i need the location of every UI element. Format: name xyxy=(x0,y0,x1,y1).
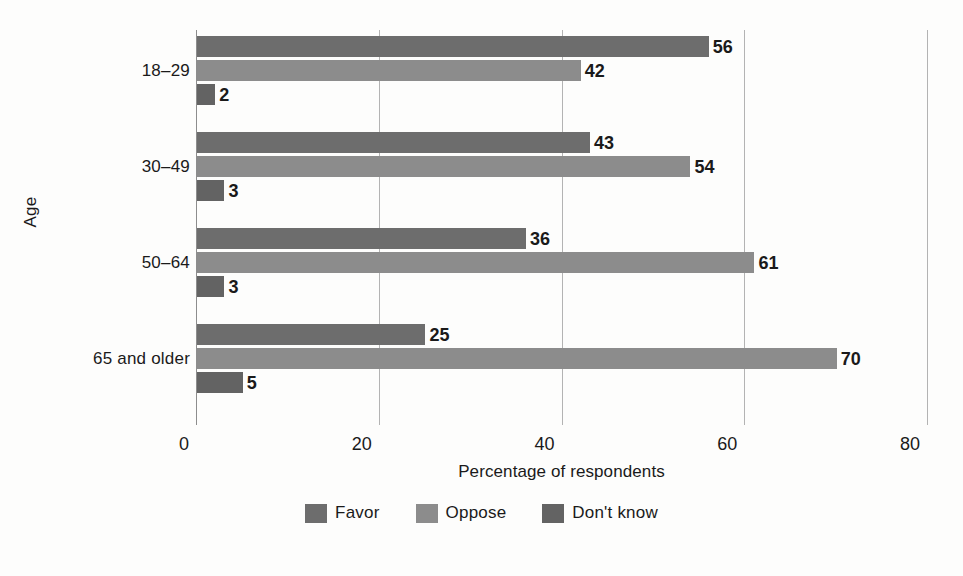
legend-swatch-icon xyxy=(542,504,564,523)
chart-legend: FavorOpposeDon't know xyxy=(0,503,963,523)
bar-value-label: 3 xyxy=(223,276,238,297)
category-axis-labels: 18–2930–4950–6465 and older xyxy=(0,30,190,425)
gridline-80 xyxy=(927,30,928,425)
bar-value-label: 61 xyxy=(753,252,778,273)
legend-label: Favor xyxy=(335,503,379,523)
category-label: 50–64 xyxy=(0,253,190,273)
legend-item[interactable]: Don't know xyxy=(542,503,658,523)
bar-value-label: 2 xyxy=(214,84,229,105)
bar xyxy=(197,36,709,57)
legend-item[interactable]: Favor xyxy=(305,503,379,523)
legend-item[interactable]: Oppose xyxy=(416,503,507,523)
bar-value-label: 36 xyxy=(525,228,550,249)
bar-chart-figure: Age 18–2930–4950–6465 and older 02040608… xyxy=(0,0,963,576)
x-tick-label-0: 0 xyxy=(179,434,196,455)
bar-value-label: 70 xyxy=(836,348,861,369)
x-tick-label-60: 60 xyxy=(717,434,744,455)
bar xyxy=(197,276,224,297)
legend-swatch-icon xyxy=(416,504,438,523)
bar xyxy=(197,84,215,105)
bar-value-label: 43 xyxy=(589,132,614,153)
bar-value-label: 25 xyxy=(424,324,449,345)
x-tick-label-40: 40 xyxy=(534,434,561,455)
category-label: 18–29 xyxy=(0,61,190,81)
bar-value-label: 54 xyxy=(689,156,714,177)
x-tick-label-80: 80 xyxy=(900,434,927,455)
bar xyxy=(197,132,590,153)
bar xyxy=(197,372,243,393)
bar xyxy=(197,180,224,201)
category-label: 65 and older xyxy=(0,349,190,369)
bar xyxy=(197,228,526,249)
bar-value-label: 5 xyxy=(242,372,257,393)
legend-label: Oppose xyxy=(446,503,507,523)
bar-value-label: 42 xyxy=(580,60,605,81)
bar xyxy=(197,252,754,273)
bar xyxy=(197,324,425,345)
x-axis-title: Percentage of respondents xyxy=(196,462,927,482)
legend-label: Don't know xyxy=(572,503,658,523)
bar xyxy=(197,156,690,177)
bar-value-label: 56 xyxy=(708,36,733,57)
category-label: 30–49 xyxy=(0,157,190,177)
bar-value-label: 3 xyxy=(223,180,238,201)
legend-swatch-icon xyxy=(305,504,327,523)
plot-area: 020406080 56422435433661325705 xyxy=(196,30,927,425)
x-tick-label-20: 20 xyxy=(352,434,379,455)
bar xyxy=(197,348,837,369)
bar xyxy=(197,60,581,81)
